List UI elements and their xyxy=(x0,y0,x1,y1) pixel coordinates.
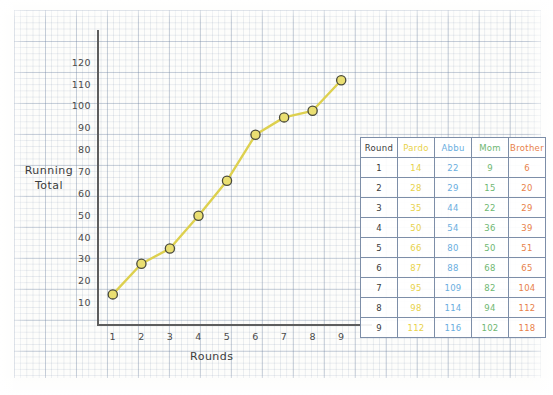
table-cell-round-row1: 1 xyxy=(361,158,398,178)
scores-table: RoundPardoAbbuMomBrother 114229622829152… xyxy=(360,137,546,338)
table-cell-mom-row3: 22 xyxy=(472,198,509,218)
table-header-row: RoundPardoAbbuMomBrother xyxy=(361,138,546,158)
data-point-round-9 xyxy=(337,76,346,85)
table-cell-abbu-row3: 44 xyxy=(435,198,472,218)
table-cell-pardo-row4: 50 xyxy=(398,218,435,238)
table-cell-pardo-row5: 66 xyxy=(398,238,435,258)
table-row: 9112116102118 xyxy=(361,318,546,338)
table-cell-round-row2: 2 xyxy=(361,178,398,198)
table-body: 1142296228291520335442229450543639566805… xyxy=(361,158,546,338)
table-cell-brother-row4: 39 xyxy=(509,218,546,238)
table-header-brother: Brother xyxy=(509,138,546,158)
table-cell-mom-row6: 68 xyxy=(472,258,509,278)
data-point-round-2 xyxy=(137,259,146,268)
table-header-pardo: Pardo xyxy=(398,138,435,158)
table-row: 450543639 xyxy=(361,218,546,238)
table-row: 1142296 xyxy=(361,158,546,178)
table-cell-pardo-row3: 35 xyxy=(398,198,435,218)
table-cell-pardo-row8: 98 xyxy=(398,298,435,318)
series-markers-pardo xyxy=(108,76,346,299)
table-cell-abbu-row4: 54 xyxy=(435,218,472,238)
table-cell-mom-row7: 82 xyxy=(472,278,509,298)
data-point-round-3 xyxy=(165,244,174,253)
table-cell-round-row9: 9 xyxy=(361,318,398,338)
table-cell-round-row7: 7 xyxy=(361,278,398,298)
table-cell-round-row5: 5 xyxy=(361,238,398,258)
table-cell-round-row3: 3 xyxy=(361,198,398,218)
data-point-round-4 xyxy=(194,211,203,220)
table-cell-brother-row9: 118 xyxy=(509,318,546,338)
table-cell-abbu-row1: 22 xyxy=(435,158,472,178)
table-cell-pardo-row2: 28 xyxy=(398,178,435,198)
table-row: 79510982104 xyxy=(361,278,546,298)
table-row: 335442229 xyxy=(361,198,546,218)
table-header-mom: Mom xyxy=(472,138,509,158)
data-point-round-7 xyxy=(280,113,289,122)
table-cell-brother-row1: 6 xyxy=(509,158,546,178)
table-cell-abbu-row6: 88 xyxy=(435,258,472,278)
table-cell-mom-row2: 15 xyxy=(472,178,509,198)
table-cell-pardo-row1: 14 xyxy=(398,158,435,178)
table-cell-brother-row7: 104 xyxy=(509,278,546,298)
table-cell-mom-row9: 102 xyxy=(472,318,509,338)
table-cell-round-row4: 4 xyxy=(361,218,398,238)
table-header-abbu: Abbu xyxy=(435,138,472,158)
table-header-round: Round xyxy=(361,138,398,158)
table-cell-pardo-row7: 95 xyxy=(398,278,435,298)
series-line-pardo xyxy=(113,80,341,294)
table-cell-round-row8: 8 xyxy=(361,298,398,318)
table-cell-abbu-row2: 29 xyxy=(435,178,472,198)
data-point-round-6 xyxy=(251,130,260,139)
table-cell-mom-row8: 94 xyxy=(472,298,509,318)
table-cell-brother-row3: 29 xyxy=(509,198,546,218)
table-cell-mom-row1: 9 xyxy=(472,158,509,178)
table-cell-pardo-row9: 112 xyxy=(398,318,435,338)
table-cell-mom-row5: 50 xyxy=(472,238,509,258)
table-cell-brother-row6: 65 xyxy=(509,258,546,278)
table-row: 687886865 xyxy=(361,258,546,278)
data-point-round-5 xyxy=(222,176,231,185)
data-point-round-1 xyxy=(108,290,117,299)
table-cell-round-row6: 6 xyxy=(361,258,398,278)
table-cell-brother-row2: 20 xyxy=(509,178,546,198)
table-cell-pardo-row6: 87 xyxy=(398,258,435,278)
data-point-round-8 xyxy=(308,106,317,115)
table-cell-abbu-row8: 114 xyxy=(435,298,472,318)
table-cell-abbu-row9: 116 xyxy=(435,318,472,338)
table-row: 566805051 xyxy=(361,238,546,258)
table-row: 89811494112 xyxy=(361,298,546,318)
table-cell-brother-row8: 112 xyxy=(509,298,546,318)
table-cell-abbu-row7: 109 xyxy=(435,278,472,298)
table-cell-mom-row4: 36 xyxy=(472,218,509,238)
table-cell-brother-row5: 51 xyxy=(509,238,546,258)
table-cell-abbu-row5: 80 xyxy=(435,238,472,258)
table-row: 228291520 xyxy=(361,178,546,198)
